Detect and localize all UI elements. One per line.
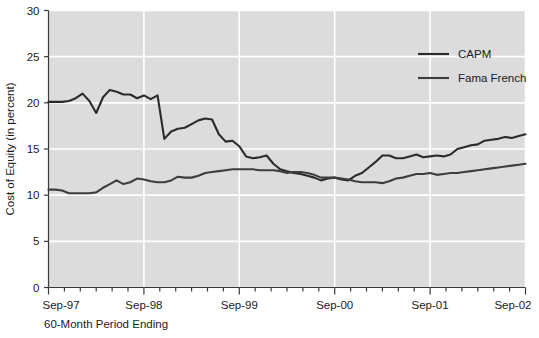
- y-axis-title: Cost of Equity (in percent): [4, 82, 16, 215]
- x-tick-label: Sep-02: [494, 299, 531, 311]
- x-tick-label: Sep-97: [43, 299, 80, 311]
- x-tick-label: Sep-01: [412, 299, 449, 311]
- legend-label-fama-french: Fama French: [458, 72, 526, 84]
- x-tick-label: Sep-98: [125, 299, 162, 311]
- x-axis-title: 60-Month Period Ending: [44, 318, 168, 330]
- cost-of-equity-line-chart: 051015202530 Sep-97Sep-98Sep-99Sep-00Sep…: [0, 0, 539, 338]
- y-tick-label: 20: [27, 97, 40, 109]
- x-tick-label: Sep-99: [221, 299, 258, 311]
- x-tick-label: Sep-00: [316, 299, 353, 311]
- y-tick-label: 5: [33, 235, 39, 247]
- y-tick-label: 25: [27, 51, 40, 63]
- legend-label-capm: CAPM: [458, 48, 491, 60]
- y-tick-label: 15: [27, 143, 40, 155]
- chart-container: 051015202530 Sep-97Sep-98Sep-99Sep-00Sep…: [0, 0, 539, 338]
- y-tick-label: 30: [27, 5, 40, 17]
- y-tick-label: 0: [33, 282, 39, 294]
- y-tick-label: 10: [27, 189, 40, 201]
